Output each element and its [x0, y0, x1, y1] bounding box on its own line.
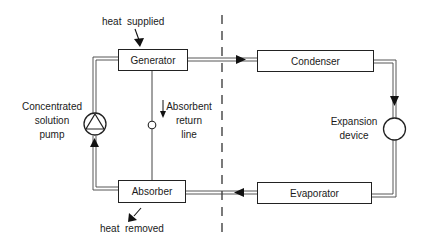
- expansion-device-label: Expansion device: [324, 116, 384, 142]
- valve-icon: [148, 121, 156, 129]
- absorber-box: Absorber: [118, 180, 186, 203]
- expansion-device-icon: [384, 118, 406, 140]
- generator-box: Generator: [118, 49, 188, 71]
- condenser-box: Condenser: [257, 50, 374, 72]
- pipe-pump-generator: [93, 57, 118, 113]
- flow-arrow-icon: [234, 188, 244, 197]
- expansion-label-line2: device: [324, 130, 384, 142]
- pipe-generator-condenser: [188, 58, 257, 61]
- condenser-label: Condenser: [291, 56, 340, 67]
- pump-label-line3: pump: [14, 129, 90, 141]
- heat-supplied-arrow-icon: [134, 29, 144, 47]
- return-line-label-line1: Absorbent: [161, 101, 217, 113]
- return-line-label-line2: return: [161, 115, 217, 127]
- heat-supplied-label: heat supplied: [102, 16, 164, 28]
- flow-arrow-icon: [390, 96, 399, 106]
- heat-removed-arrow-icon: [128, 208, 141, 222]
- pump-label-line1: Concentrated: [14, 101, 90, 113]
- heat-removed-label: heat removed: [100, 223, 164, 235]
- flow-arrow-icon: [90, 138, 99, 147]
- pump-label-line2: solution: [14, 115, 90, 127]
- return-line-label: Absorbent return line: [161, 101, 217, 141]
- evaporator-label: Evaporator: [290, 188, 339, 199]
- absorber-label: Absorber: [132, 186, 173, 197]
- flow-arrow-icon: [236, 55, 246, 64]
- evaporator-box: Evaporator: [257, 182, 372, 204]
- return-line-label-line3: line: [161, 129, 217, 141]
- pipe-condenser-expansion: [374, 60, 396, 118]
- expansion-label-line1: Expansion: [324, 116, 384, 128]
- generator-label: Generator: [130, 55, 175, 66]
- pipe-expansion-evaporator: [372, 140, 396, 197]
- pump-label: Concentrated solution pump: [14, 101, 90, 141]
